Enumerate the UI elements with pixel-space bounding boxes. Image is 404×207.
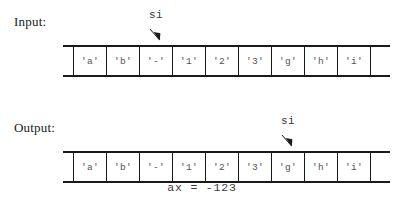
figure-canvas: Input: si 'a''b''-''1''2''3''g''h''i' Ou… [0, 0, 404, 207]
tape-cell: 'h' [304, 153, 338, 181]
result-register-text: ax = -123 [0, 181, 404, 194]
tape-cell: 'b' [106, 153, 140, 181]
tape-cell: '3' [238, 47, 272, 75]
output-tape: 'a''b''-''1''2''3''g''h''i' [63, 151, 390, 183]
tape-cell: 'b' [106, 47, 140, 75]
tape-cell: 'i' [337, 153, 371, 181]
tape-cell: '3' [238, 153, 272, 181]
tape-cell: '2' [205, 47, 239, 75]
tape-cell: '1' [172, 47, 206, 75]
tape-cell: 'a' [73, 153, 107, 181]
tape-cell: '-' [139, 153, 173, 181]
output-tape-cells: 'a''b''-''1''2''3''g''h''i' [73, 153, 370, 181]
tape-cell: '1' [172, 153, 206, 181]
tape-cell: 'g' [271, 47, 305, 75]
output-section-label: Output: [14, 120, 55, 136]
input-si-pointer-label: si [149, 9, 163, 21]
input-tape-cells: 'a''b''-''1''2''3''g''h''i' [73, 47, 370, 75]
input-tape-bottom-rail [63, 75, 390, 77]
tape-cell: 'i' [337, 47, 371, 75]
tape-cell: '-' [139, 47, 173, 75]
tape-cell: '2' [205, 153, 239, 181]
tape-cell: 'h' [304, 47, 338, 75]
tape-cell: 'g' [271, 153, 305, 181]
output-si-pointer-label: si [281, 115, 295, 127]
input-section-label: Input: [14, 14, 46, 30]
tape-cell: 'a' [73, 47, 107, 75]
input-tape: 'a''b''-''1''2''3''g''h''i' [63, 45, 390, 77]
